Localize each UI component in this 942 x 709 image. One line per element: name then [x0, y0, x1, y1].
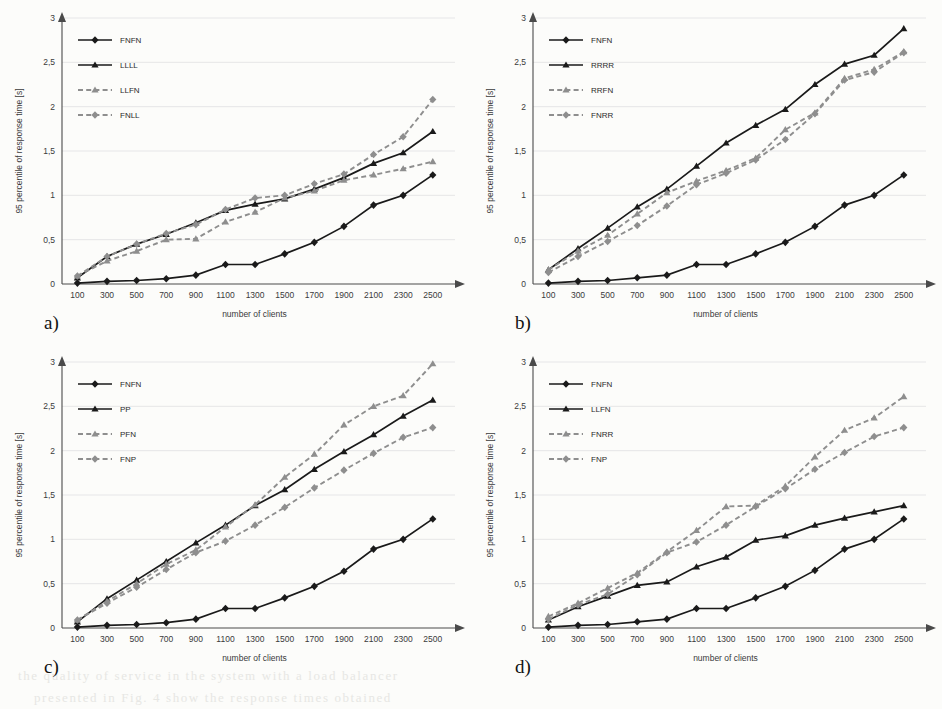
legend-label-LLFN: LLFN	[591, 405, 611, 414]
x-axis-title: number of clients	[693, 653, 758, 663]
data-point-FNFN	[192, 615, 199, 623]
data-point-FNLL	[429, 96, 436, 104]
x-axis-title: number of clients	[693, 309, 758, 319]
y-axis-title: 95 percentile of response time [s]	[485, 432, 495, 557]
data-point-FNFN	[663, 271, 670, 279]
x-tick-label: 500	[601, 634, 615, 644]
chart-svg-c: 00,511,522,53100300500700900110013001500…	[0, 344, 471, 692]
legend-item-FNLL: FNLL	[78, 111, 140, 120]
y-axis-arrow	[529, 356, 537, 366]
legend-label-RRRR: RRRR	[591, 61, 614, 70]
data-point-LLFN	[429, 158, 436, 164]
x-tick-label: 300	[100, 290, 114, 300]
y-tick-label: 2	[521, 102, 526, 112]
data-point-PP	[429, 397, 436, 403]
y-tick-label: 2,5	[43, 401, 55, 411]
chart-panel-b: 00,511,522,53100300500700900110013001500…	[471, 0, 942, 348]
data-point-FNFN	[251, 605, 258, 613]
x-tick-label: 300	[571, 290, 585, 300]
data-point-PP	[311, 466, 318, 472]
data-point-FNP	[311, 484, 318, 492]
data-point-RRRR	[722, 139, 729, 145]
data-point-FNFN	[163, 275, 170, 283]
x-tick-label: 1300	[246, 290, 265, 300]
data-point-FNFN	[222, 605, 229, 613]
legend-label-LLFN: LLFN	[120, 86, 140, 95]
y-axis-arrow	[58, 356, 66, 366]
data-point-FNFN	[752, 594, 759, 602]
data-point-FNFN	[74, 623, 81, 631]
legend-item-FNRR: FNRR	[549, 111, 613, 120]
x-tick-label: 2100	[364, 290, 383, 300]
y-tick-label: 3	[521, 13, 526, 23]
y-tick-label: 2	[50, 102, 55, 112]
x-tick-label: 100	[70, 290, 84, 300]
chart-panel-d: 00,511,522,53100300500700900110013001500…	[471, 344, 942, 692]
chart-svg-b: 00,511,522,53100300500700900110013001500…	[471, 0, 942, 348]
y-tick-label: 2	[521, 446, 526, 456]
y-axis-arrow	[529, 12, 537, 22]
data-point-FNP	[192, 549, 199, 557]
data-point-RRRR	[900, 25, 907, 31]
x-tick-label: 100	[70, 634, 84, 644]
data-point-FNFN	[752, 250, 759, 258]
x-tick-label: 900	[660, 290, 674, 300]
y-tick-label: 0,5	[514, 235, 526, 245]
data-point-FNFN	[693, 261, 700, 269]
data-point-LLLL	[429, 128, 436, 134]
x-tick-label: 2500	[423, 290, 442, 300]
y-tick-label: 1,5	[43, 146, 55, 156]
data-point-FNFN	[634, 274, 641, 282]
data-point-FNRR	[841, 427, 848, 433]
y-tick-label: 0	[50, 623, 55, 633]
x-tick-label: 700	[630, 634, 644, 644]
data-point-FNFN	[722, 605, 729, 613]
y-tick-label: 3	[521, 357, 526, 367]
legend-marker-FNFN	[562, 36, 569, 44]
y-tick-label: 1	[50, 190, 55, 200]
data-point-FNRR	[545, 269, 552, 277]
x-tick-label: 2500	[423, 634, 442, 644]
chart-panel-a: 00,511,522,53100300500700900110013001500…	[0, 0, 471, 348]
y-axis-title: 95 percentile of response time [s]	[485, 88, 495, 213]
data-point-PFN	[311, 451, 318, 457]
x-axis-arrow	[455, 280, 465, 288]
legend-item-LLFN: LLFN	[78, 86, 140, 95]
legend-item-FNFN: FNFN	[78, 36, 142, 45]
data-point-RRFN	[604, 232, 611, 238]
data-point-FNLL	[311, 180, 318, 188]
x-tick-label: 300	[571, 634, 585, 644]
y-tick-label: 1	[50, 534, 55, 544]
y-tick-label: 3	[50, 357, 55, 367]
y-axis-title: 95 percentile of response time [s]	[14, 88, 24, 213]
x-tick-label: 2300	[394, 634, 413, 644]
data-point-FNRR	[871, 414, 878, 420]
legend-item-PFN: PFN	[78, 430, 136, 439]
data-point-FNP	[340, 466, 347, 474]
x-tick-label: 1100	[216, 634, 235, 644]
panel-label-b: b)	[515, 312, 531, 334]
x-tick-label: 1700	[305, 290, 324, 300]
legend-label-FNFN: FNFN	[120, 36, 142, 45]
legend-marker-FNFN	[91, 36, 98, 44]
legend-label-FNFN: FNFN	[591, 380, 613, 389]
data-point-PP	[370, 431, 377, 437]
x-tick-label: 2100	[364, 634, 383, 644]
data-point-FNFN	[222, 261, 229, 269]
legend-item-FNFN: FNFN	[78, 380, 142, 389]
x-tick-label: 1500	[275, 634, 294, 644]
x-tick-label: 1500	[746, 634, 765, 644]
legend-label-FNP: FNP	[120, 455, 136, 464]
data-point-FNLL	[133, 240, 140, 248]
data-point-FNP	[429, 424, 436, 432]
y-tick-label: 1,5	[514, 146, 526, 156]
y-tick-label: 3	[50, 13, 55, 23]
data-point-LLFN	[900, 502, 907, 508]
legend-label-FNRR: FNRR	[591, 430, 613, 439]
x-tick-label: 2100	[835, 290, 854, 300]
data-point-FNFN	[133, 277, 140, 285]
legend-marker-FNLL	[91, 111, 98, 119]
x-tick-label: 1100	[687, 290, 706, 300]
data-point-FNFN	[133, 621, 140, 629]
x-tick-label: 300	[100, 634, 114, 644]
